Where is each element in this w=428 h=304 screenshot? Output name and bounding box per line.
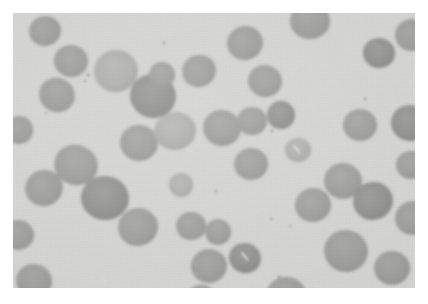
- stain-debris-speck: [163, 42, 166, 45]
- erythrocyte: [374, 251, 410, 285]
- micrograph-canvas: [13, 13, 415, 288]
- stain-debris-speck: [278, 276, 281, 279]
- erythrocyte: [149, 62, 175, 88]
- stain-debris-speck: [86, 73, 89, 76]
- stain-debris-speck: [271, 130, 274, 133]
- stain-debris-speck: [289, 225, 291, 227]
- erythrocyte: [176, 212, 206, 240]
- stain-debris-speck: [84, 80, 86, 82]
- stain-debris-speck: [215, 190, 217, 192]
- blood-smear-micrograph: [13, 13, 415, 288]
- erythrocyte: [343, 109, 377, 141]
- stain-debris-speck: [270, 218, 272, 220]
- stain-debris-speck: [45, 112, 47, 114]
- erythrocyte: [169, 173, 193, 197]
- figure-page: [0, 0, 428, 304]
- erythrocyte: [237, 107, 267, 135]
- stain-debris-speck: [364, 98, 367, 101]
